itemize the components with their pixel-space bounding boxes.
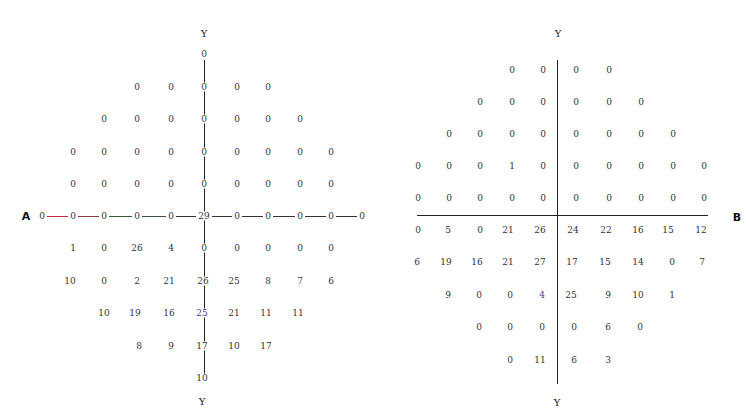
- grid-value: 0: [573, 194, 579, 203]
- grid-value: 0: [446, 130, 452, 139]
- grid-value: 0: [638, 194, 644, 203]
- grid-value: 21: [502, 226, 513, 235]
- panel-b: Y Y B 0000000000000000000001000000000000…: [0, 0, 746, 420]
- grid-value: 0: [638, 130, 644, 139]
- grid-value: 1: [669, 291, 675, 300]
- grid-value: 9: [605, 291, 611, 300]
- grid-value: 10: [632, 291, 643, 300]
- grid-value: 15: [599, 258, 610, 267]
- grid-value: 1: [509, 162, 515, 171]
- grid-value: 0: [446, 194, 452, 203]
- grid-value: 0: [638, 162, 644, 171]
- grid-value: 0: [571, 323, 577, 332]
- grid-value: 0: [415, 194, 421, 203]
- grid-value: 11: [534, 356, 545, 365]
- grid-value: 19: [440, 258, 451, 267]
- grid-value: 0: [509, 98, 515, 107]
- grid-value: 9: [445, 291, 451, 300]
- grid-value: 0: [507, 291, 513, 300]
- grid-value: 14: [632, 258, 643, 267]
- grid-value: 0: [670, 162, 676, 171]
- grid-value: 27: [534, 258, 545, 267]
- y-axis-right: [557, 60, 558, 384]
- grid-value: 0: [606, 66, 612, 75]
- grid-value: 12: [695, 226, 706, 235]
- grid-value: 0: [573, 130, 579, 139]
- grid-value: 0: [415, 162, 421, 171]
- grid-value: 0: [540, 66, 546, 75]
- grid-value: 25: [565, 291, 576, 300]
- grid-value: 0: [539, 323, 545, 332]
- grid-value: 0: [415, 226, 421, 235]
- grid-value: 6: [605, 323, 611, 332]
- grid-value: 0: [476, 323, 482, 332]
- grid-value: 22: [600, 226, 611, 235]
- grid-value: 0: [476, 291, 482, 300]
- grid-value: 0: [477, 162, 483, 171]
- grid-value: 0: [477, 226, 483, 235]
- y-axis-label-bottom-right: Y: [554, 397, 561, 408]
- grid-value: 0: [573, 98, 579, 107]
- grid-value: 0: [540, 194, 546, 203]
- grid-value: 0: [509, 130, 515, 139]
- grid-value: 0: [540, 162, 546, 171]
- grid-value: 0: [509, 194, 515, 203]
- grid-value: 0: [637, 323, 643, 332]
- grid-value: 0: [670, 194, 676, 203]
- grid-value: 16: [471, 258, 482, 267]
- grid-value: 0: [540, 98, 546, 107]
- grid-value: 0: [573, 162, 579, 171]
- grid-value: 0: [507, 356, 513, 365]
- grid-value: 0: [540, 130, 546, 139]
- grid-value: 0: [701, 194, 707, 203]
- grid-value: 5: [445, 226, 451, 235]
- y-axis-label-top-right: Y: [555, 28, 562, 39]
- b-axis-label: B: [733, 211, 741, 224]
- grid-value: 7: [699, 258, 705, 267]
- grid-value: 0: [446, 162, 452, 171]
- grid-value: 0: [606, 162, 612, 171]
- grid-value: 0: [573, 66, 579, 75]
- grid-value: 0: [701, 162, 707, 171]
- grid-value: 4: [539, 291, 545, 300]
- grid-value: 17: [566, 258, 577, 267]
- grid-value: 3: [605, 356, 611, 365]
- grid-value: 0: [669, 258, 675, 267]
- grid-value: 24: [567, 226, 578, 235]
- grid-value: 0: [477, 98, 483, 107]
- grid-value: 0: [477, 194, 483, 203]
- grid-value: 0: [509, 66, 515, 75]
- grid-value: 0: [606, 130, 612, 139]
- grid-value: 0: [670, 130, 676, 139]
- grid-value: 0: [638, 98, 644, 107]
- grid-value: 0: [477, 130, 483, 139]
- grid-value: 21: [502, 258, 513, 267]
- b-axis-line: [417, 215, 708, 216]
- grid-value: 16: [632, 226, 643, 235]
- grid-value: 0: [606, 98, 612, 107]
- grid-value: 15: [662, 226, 673, 235]
- grid-value: 6: [414, 258, 420, 267]
- grid-value: 6: [571, 356, 577, 365]
- grid-value: 26: [534, 226, 545, 235]
- grid-value: 0: [507, 323, 513, 332]
- grid-value: 0: [606, 194, 612, 203]
